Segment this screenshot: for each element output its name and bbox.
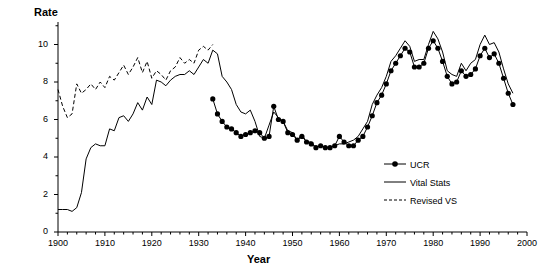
legend-label-revised-vs: Revised VS	[410, 196, 457, 206]
legend-label-ucr: UCR	[410, 160, 430, 170]
legend-symbols	[0, 0, 551, 276]
homicide-rate-chart: Rate Year 190019101920193019401950196019…	[0, 0, 551, 276]
legend-label-vital-stats: Vital Stats	[410, 178, 450, 188]
